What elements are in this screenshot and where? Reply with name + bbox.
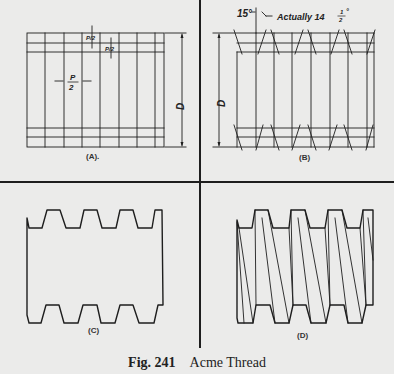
figure-title: Acme Thread <box>190 355 266 370</box>
actual-angle-degree: ° <box>346 8 349 15</box>
acme-thread-figure: P/2 P/2 P 2 D (A). <box>0 0 394 374</box>
figure-number: Fig. 241 <box>128 355 175 370</box>
panel-a-label: (A). <box>86 152 99 161</box>
diameter-label-a: D <box>175 103 186 110</box>
pitch-half-den: 2 <box>68 83 74 92</box>
depth-label-2: P/2 <box>105 46 115 52</box>
actual-angle-frac-den: 2 <box>338 17 343 23</box>
actual-angle-frac-num: 1 <box>340 9 344 15</box>
diameter-label-b: D <box>216 100 227 107</box>
panel-b-annotations: 15° Actually 14 1 2 ° D (B) <box>216 8 349 162</box>
panel-c-label: (C) <box>88 326 99 335</box>
panel-b <box>213 8 375 150</box>
panel-a-annotations: P/2 P/2 P 2 D (A). <box>68 35 186 161</box>
pitch-half-num: P <box>70 73 76 82</box>
panel-c <box>27 210 163 323</box>
figure-caption: Fig. 241Acme Thread <box>0 355 394 371</box>
panel-a <box>27 26 186 147</box>
panel-d-label: (D) <box>297 331 308 340</box>
panel-c-annotations: (C) <box>88 326 99 335</box>
panel-d <box>237 210 373 323</box>
depth-label-1: P/2 <box>86 35 96 41</box>
angle-label: 15° <box>237 8 253 19</box>
panel-b-label: (B) <box>299 153 310 162</box>
panel-d-helix-lines <box>237 210 373 323</box>
actual-angle-note: Actually 14 <box>276 12 325 22</box>
panel-d-annotations: (D) <box>297 331 308 340</box>
